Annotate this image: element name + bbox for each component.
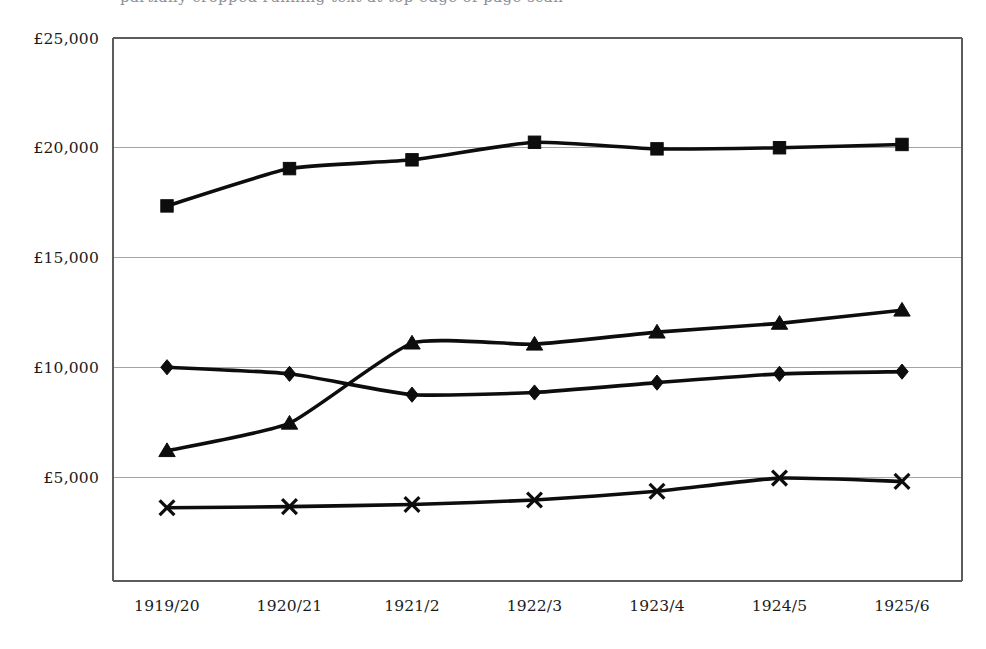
data-point-square-series-5: [773, 142, 785, 154]
x-tick-label-1924-5: 1924/5: [752, 597, 808, 615]
series-line-triangle-series: [167, 310, 902, 450]
series-triangle-series: [159, 302, 910, 456]
gridlines-group: [113, 38, 962, 477]
data-point-diamond-series-1: [283, 366, 295, 381]
data-point-square-series-4: [651, 143, 663, 155]
data-point-diamond-series-6: [896, 364, 908, 379]
data-point-triangle-series-1: [281, 415, 297, 429]
data-point-square-series-1: [283, 162, 295, 174]
data-point-diamond-series-5: [773, 366, 785, 381]
data-point-diamond-series-2: [406, 387, 418, 402]
x-tick-label-1922-3: 1922/3: [507, 597, 563, 615]
y-tick-label-10000: £10,000: [34, 359, 100, 377]
y-axis-tick-labels: £5,000£10,000£15,000£20,000£25,000: [34, 30, 100, 487]
series-line-cross-series: [167, 478, 902, 508]
x-tick-label-1919-20: 1919/20: [134, 597, 200, 615]
figure-container: partially cropped running text at top ed…: [0, 0, 986, 649]
y-tick-label-25000: £25,000: [34, 30, 100, 48]
x-tick-label-1923-4: 1923/4: [629, 597, 685, 615]
data-point-diamond-series-3: [528, 385, 540, 400]
x-axis-tick-labels: 1919/201920/211921/21922/31923/41924/519…: [134, 597, 930, 615]
data-point-square-series-6: [896, 138, 908, 150]
y-tick-label-20000: £20,000: [34, 139, 100, 157]
y-tick-label-15000: £15,000: [34, 249, 100, 267]
line-chart: £5,000£10,000£15,000£20,000£25,000 1919/…: [0, 0, 986, 649]
x-tick-label-1921-2: 1921/2: [384, 597, 440, 615]
x-tick-label-1925-6: 1925/6: [874, 597, 930, 615]
series-line-square-series: [167, 142, 902, 206]
data-point-square-series-3: [528, 136, 540, 148]
y-tick-label-5000: £5,000: [44, 469, 99, 487]
x-tick-label-1920-21: 1920/21: [257, 597, 323, 615]
data-point-square-series-0: [161, 200, 173, 212]
data-series-layer: [159, 136, 910, 515]
data-point-diamond-series-4: [651, 375, 663, 390]
series-diamond-series: [161, 360, 908, 403]
data-point-square-series-2: [406, 154, 418, 166]
data-point-diamond-series-0: [161, 360, 173, 375]
